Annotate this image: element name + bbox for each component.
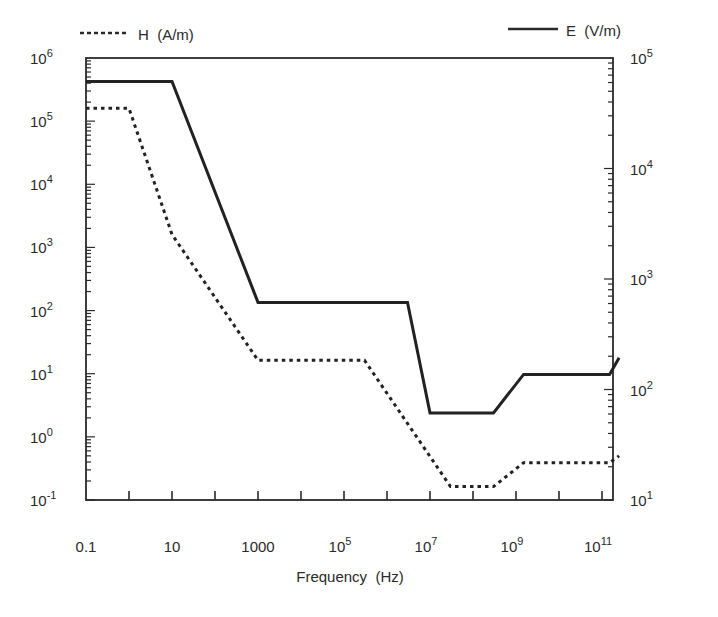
legend: H (A/m) E (V/m): [80, 22, 621, 43]
series-h-line: [86, 108, 619, 486]
axis-ticks: [86, 61, 613, 500]
x-tick-label: 109: [501, 535, 524, 555]
chart: H (A/m) E (V/m) 0.1101000105107109101110…: [0, 0, 718, 617]
x-tick-label: 105: [329, 535, 352, 555]
legend-e-label: E (V/m): [566, 22, 621, 39]
y-right-tick-label: 104: [630, 158, 653, 178]
x-axis-title: Frequency (Hz): [296, 568, 404, 585]
series-e-line: [86, 81, 619, 413]
y-right-tick-label: 105: [630, 47, 653, 67]
y-left-tick-label: 104: [30, 173, 53, 193]
plot-frame: [86, 58, 613, 500]
x-tick-label: 1011: [584, 535, 612, 555]
y-right-tick-label: 101: [630, 489, 653, 509]
x-tick-label: 10: [164, 538, 181, 555]
y-left-tick-label: 106: [30, 47, 53, 67]
y-right-tick-label: 102: [630, 379, 653, 399]
y-left-tick-label: 105: [30, 110, 53, 130]
y-left-tick-label: 100: [30, 426, 53, 446]
y-right-tick-label: 103: [630, 268, 653, 288]
y-left-tick-label: 101: [30, 363, 53, 383]
x-tick-label: 107: [415, 535, 438, 555]
y-left-tick-label: 103: [30, 236, 53, 256]
y-left-tick-label: 10-1: [30, 489, 56, 509]
y-left-tick-label: 102: [30, 300, 53, 320]
legend-h-label: H (A/m): [138, 26, 194, 43]
x-tick-label: 0.1: [76, 538, 97, 555]
x-tick-label: 1000: [241, 538, 274, 555]
